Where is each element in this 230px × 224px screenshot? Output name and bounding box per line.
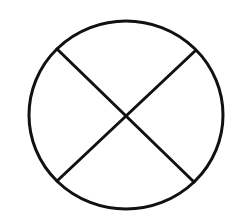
diagram-canvas	[0, 0, 230, 224]
circle-cross-figure	[0, 0, 230, 224]
